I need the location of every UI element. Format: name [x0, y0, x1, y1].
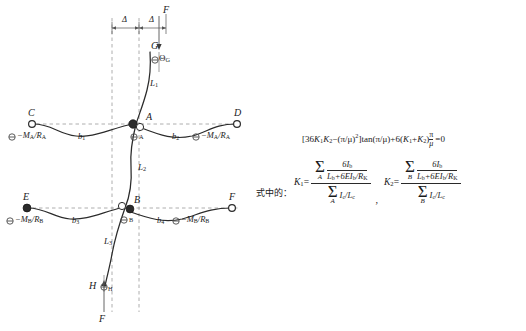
k1-beam-stiffness-term: 6Ib Lb+6EIb/RK	[327, 159, 368, 182]
theta-symbol-g	[152, 57, 158, 63]
label-force-f-bottom: F	[99, 314, 105, 324]
k2-beam-stiffness-term: 6Ib Lb+6EIb/RK	[417, 159, 458, 182]
engineering-figure: F F Δ Δ G ΘG L1 L2 L3 C −MA/RA D −MA/RA …	[0, 0, 526, 331]
label-rotation-c: −MA/RA	[17, 131, 46, 141]
theta-symbol-c	[9, 134, 15, 140]
k2-column-stiffness-term: Ic/Lc	[430, 190, 445, 200]
joint-node-b-filled	[126, 205, 134, 213]
theta-symbol-f	[173, 218, 179, 224]
label-beam-b3: b3	[72, 216, 79, 226]
end-pin-c	[29, 121, 36, 128]
sigma-a-numerator: Σ A	[315, 160, 325, 180]
label-theta-a: A	[139, 131, 144, 141]
joint-node-a-open	[136, 123, 143, 130]
label-beam-b1: b1	[78, 132, 85, 142]
dim-arrow-b	[135, 26, 139, 29]
label-theta-h: H	[108, 283, 113, 293]
k1-definition: K1= Σ A 6Ib Lb+6EIb/RK	[294, 159, 384, 205]
theta-symbol-e	[7, 218, 13, 224]
k2-fraction: Σ B 6Ib Lb+6EIb/RK	[401, 159, 461, 205]
end-pin-f	[229, 205, 236, 212]
label-column-l2: L2	[138, 163, 146, 173]
k1-fraction: Σ A 6Ib Lb+6EIb/RK	[311, 159, 371, 205]
label-column-l1: L1	[150, 79, 158, 89]
k1-numerator: Σ A 6Ib Lb+6EIb/RK	[311, 159, 371, 183]
equations-panel: [36K1K2−(π/μ)2]tan(π/μ)+6(K1+K2)πμ=0 式中的…	[280, 0, 526, 331]
label-point-f-right: F	[229, 192, 235, 202]
k2-name: K2=	[384, 177, 401, 187]
label-point-a: A	[146, 112, 152, 122]
sigma-a-denominator: Σ A	[328, 185, 338, 205]
k1-denominator: Σ A Ic/Lc	[324, 184, 359, 205]
label-point-e: E	[23, 192, 29, 202]
sigma-b-numerator: Σ B	[405, 160, 415, 180]
label-point-c: C	[28, 108, 35, 118]
beam-curve-b4	[128, 208, 231, 221]
label-rotation-e: −MB/RB	[15, 215, 43, 225]
label-point-g: G	[151, 41, 158, 51]
k2-definition: K2= Σ B 6Ib Lb+6EIb/RK	[384, 159, 461, 205]
label-rotation-d: −MA/RA	[201, 131, 230, 141]
label-theta-g: ΘG	[159, 54, 170, 64]
label-delta-left: Δ	[122, 15, 127, 24]
end-pin-e	[23, 204, 31, 212]
k1-column-stiffness-term: Ic/Lc	[340, 190, 355, 200]
sigma-b-denominator: Σ B	[418, 185, 428, 205]
label-delta-right: Δ	[149, 15, 154, 24]
label-point-b: B	[134, 195, 140, 205]
k-definitions-row: K1= Σ A 6Ib Lb+6EIb/RK	[294, 159, 461, 205]
label-rotation-f: −MB/RB	[181, 215, 209, 225]
label-column-l3: L3	[104, 237, 112, 247]
end-pin-d	[234, 121, 241, 128]
k2-numerator: Σ B 6Ib Lb+6EIb/RK	[401, 159, 461, 183]
dim-arrow-d	[162, 26, 166, 29]
k-separator-comma: ,	[371, 194, 384, 205]
label-beam-b4: b4	[157, 216, 164, 226]
k1-name: K1=	[294, 177, 311, 187]
label-theta-b: B	[129, 214, 133, 224]
theta-symbol-b	[121, 217, 127, 223]
dim-arrow-a	[112, 26, 116, 29]
dim-arrow-c	[139, 26, 143, 29]
where-label: 式中的：	[256, 186, 292, 199]
k2-denominator: Σ B Ic/Lc	[414, 184, 449, 205]
joint-node-b-open-left	[118, 202, 125, 209]
label-point-d: D	[234, 108, 241, 118]
label-beam-b2: b2	[172, 132, 179, 142]
main-equation: [36K1K2−(π/μ)2]tan(π/μ)+6(K1+K2)πμ=0	[302, 131, 445, 148]
label-force-f-top: F	[163, 5, 169, 15]
label-point-h: H	[89, 281, 96, 291]
